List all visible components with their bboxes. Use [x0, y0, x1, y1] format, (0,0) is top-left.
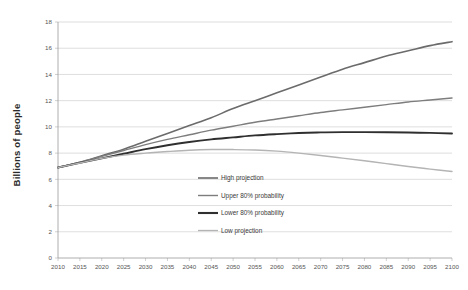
- chart-canvas: 024681012141618 201020152020202520302035…: [0, 0, 468, 290]
- x-tick-label-2015: 2015: [73, 263, 87, 270]
- population-projection-chart: 024681012141618 201020152020202520302035…: [0, 0, 468, 290]
- x-tick-label-2060: 2060: [270, 263, 284, 270]
- y-tick-label-4: 4: [49, 202, 53, 209]
- y-tick-label-18: 18: [45, 18, 52, 25]
- legend-label-2: Lower 80% probability: [221, 209, 285, 217]
- x-tick-label-2020: 2020: [95, 263, 109, 270]
- x-tick-label-2095: 2095: [423, 263, 437, 270]
- x-tick-label-2080: 2080: [358, 263, 372, 270]
- legend-label-0: High projection: [221, 174, 264, 182]
- x-tick-label-2090: 2090: [401, 263, 415, 270]
- x-tick-label-2035: 2035: [161, 263, 175, 270]
- x-tick-label-2030: 2030: [139, 263, 153, 270]
- x-tick-label-2100: 2100: [445, 263, 459, 270]
- y-tick-label-14: 14: [45, 71, 52, 78]
- x-tick-label-2070: 2070: [314, 263, 328, 270]
- x-tick-label-2085: 2085: [379, 263, 393, 270]
- y-tick-label-2: 2: [49, 228, 53, 235]
- y-tick-label-12: 12: [45, 97, 52, 104]
- x-tick-label-2025: 2025: [117, 263, 131, 270]
- legend-label-3: Low projection: [221, 227, 263, 235]
- y-tick-label-6: 6: [49, 176, 53, 183]
- x-tick-label-2010: 2010: [51, 263, 65, 270]
- x-tick-label-2065: 2065: [292, 263, 306, 270]
- y-tick-label-16: 16: [45, 44, 52, 51]
- x-tick-label-2075: 2075: [336, 263, 350, 270]
- y-tick-label-8: 8: [49, 149, 53, 156]
- legend-label-1: Upper 80% probability: [221, 192, 285, 200]
- y-tick-label-0: 0: [49, 254, 53, 261]
- y-axis-title: Billions of people: [11, 104, 22, 187]
- chart-background: [0, 0, 468, 290]
- x-tick-label-2050: 2050: [226, 263, 240, 270]
- x-tick-label-2040: 2040: [182, 263, 196, 270]
- x-tick-label-2045: 2045: [204, 263, 218, 270]
- x-tick-label-2055: 2055: [248, 263, 262, 270]
- y-tick-label-10: 10: [45, 123, 52, 130]
